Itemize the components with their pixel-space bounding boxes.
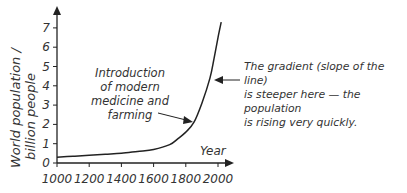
y-axis-label-line2: billion people <box>23 73 38 160</box>
annotation-line: of modern <box>80 80 180 94</box>
x-tick-label: 1800 <box>171 172 202 186</box>
y-tick-label: 4 <box>42 79 50 93</box>
annotation-line: is rising very quickly. <box>244 116 407 130</box>
annotation-medicine: Introduction of modern medicine and farm… <box>80 66 180 122</box>
x-tick-label: 1400 <box>106 172 137 186</box>
y-ticks: 01234567 <box>42 21 57 170</box>
y-tick-label: 5 <box>42 60 50 74</box>
annotation-line: is steeper here — the population <box>244 88 407 116</box>
x-axis-label: Year <box>200 144 227 158</box>
annotation-line: farming <box>80 108 180 122</box>
y-tick-label: 6 <box>42 40 50 54</box>
annotation-line: medicine and <box>80 94 180 108</box>
y-axis-label-line1: World population / <box>8 47 23 168</box>
x-tick-label: 1600 <box>138 172 169 186</box>
annotation-line: Introduction <box>80 66 180 80</box>
y-tick-label: 2 <box>42 117 50 131</box>
annotation-gradient: The gradient (slope of the line) is stee… <box>244 60 407 130</box>
x-tick-label: 2000 <box>203 172 234 186</box>
arrowhead-2-icon <box>214 76 223 84</box>
arrowhead-1-icon <box>183 116 193 124</box>
annotation-line: The gradient (slope of the line) <box>244 60 407 88</box>
x-tick-label: 1200 <box>74 172 105 186</box>
y-axis-arrow-icon <box>53 6 61 15</box>
y-tick-label: 1 <box>42 137 50 151</box>
y-tick-label: 3 <box>42 98 50 112</box>
x-ticks: 100012001400160018002000 <box>42 163 234 186</box>
x-tick-label: 1000 <box>42 172 73 186</box>
y-tick-label: 0 <box>42 156 50 170</box>
y-tick-label: 7 <box>42 21 50 35</box>
x-axis-arrow-icon <box>225 159 234 167</box>
